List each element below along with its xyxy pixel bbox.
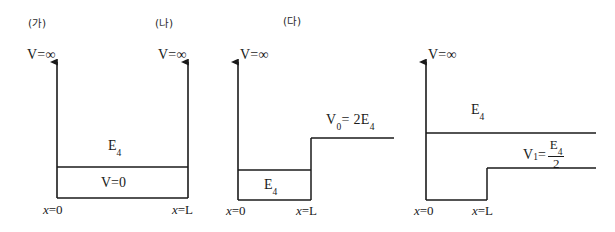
- fraction-denominator: 2: [553, 157, 560, 171]
- left-wall-label-text: V=∞: [27, 47, 56, 62]
- step-potential-label-v1: V1= E4 2: [523, 139, 564, 172]
- energy-label-base: E: [264, 177, 273, 192]
- panel-d-lines: [426, 62, 596, 200]
- left-wall-label-v-infinity: V=∞: [240, 48, 269, 62]
- x-value: =L: [302, 203, 317, 218]
- fraction-numerator-subscript: 4: [558, 147, 563, 157]
- x-axis-label-left-zero: x=0: [43, 203, 63, 216]
- x-axis-label-right-l: x=L: [472, 204, 493, 217]
- energy-label-subscript: 4: [117, 148, 122, 158]
- left-wall-label-text: V=∞: [240, 47, 269, 62]
- potential-label-text: V=0: [101, 175, 126, 190]
- right-wall-label-text: V=∞: [158, 47, 187, 62]
- step-potential-label-v0: V0= 2E4: [326, 113, 375, 130]
- x-value: =0: [49, 202, 63, 217]
- left-wall-label-text: V=∞: [428, 47, 457, 62]
- step-potential-variable-subscript: 0: [336, 122, 341, 132]
- fraction-numerator: E4: [548, 138, 565, 156]
- step-potential-value-subscript: 4: [370, 122, 375, 132]
- panel-title-da: (다): [283, 16, 301, 27]
- fraction-e4-over-2: E4 2: [548, 138, 565, 171]
- x-value: =0: [420, 203, 434, 218]
- energy-label-subscript: 4: [273, 187, 278, 197]
- x-axis-label-right-l: x=L: [296, 204, 317, 217]
- energy-label-e4: E4: [108, 139, 121, 156]
- right-wall-label-v-infinity: V=∞: [158, 48, 187, 62]
- step-potential-variable-subscript: 1: [533, 153, 538, 163]
- step-potential-equals: =: [538, 148, 546, 162]
- potential-label-v-zero: V=0: [101, 176, 126, 190]
- x-value: =L: [178, 202, 193, 217]
- x-axis-label-right-l: x=L: [172, 203, 193, 216]
- x-axis-label-left-zero: x=0: [414, 204, 434, 217]
- step-potential-variable: V: [326, 112, 336, 127]
- energy-label-base: E: [108, 138, 117, 153]
- x-axis-label-left-zero: x=0: [226, 204, 246, 217]
- panel-title-na: (나): [155, 18, 173, 29]
- step-potential-variable: V: [523, 148, 533, 162]
- x-value: =L: [478, 203, 493, 218]
- panel-title-ga: (가): [28, 18, 46, 29]
- physics-potential-well-figure: (가) (나) V=∞ V=∞ E4 V=0 x=0 x=L (다) V=∞ E…: [0, 0, 615, 232]
- fraction-numerator-base: E: [550, 137, 558, 152]
- energy-label-subscript: 4: [480, 112, 485, 122]
- energy-label-base: E: [471, 102, 480, 117]
- energy-label-e4: E4: [471, 103, 484, 120]
- x-value: =0: [232, 203, 246, 218]
- left-wall-label-v-infinity: V=∞: [428, 48, 457, 62]
- step-potential-value: = 2E: [341, 112, 369, 127]
- left-wall-label-v-infinity: V=∞: [27, 48, 56, 62]
- energy-label-e4: E4: [264, 178, 277, 195]
- diagram-linework: [0, 0, 615, 232]
